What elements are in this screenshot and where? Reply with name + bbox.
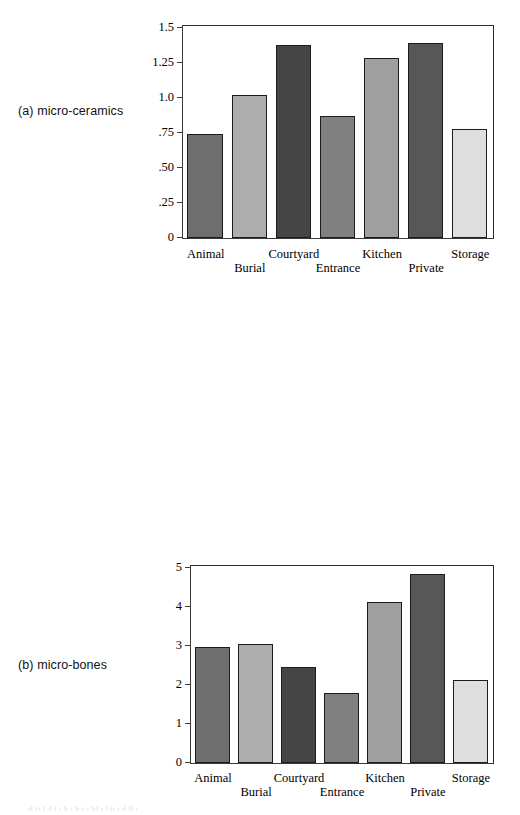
y-tick-label: 1.5: [136, 21, 174, 34]
y-tick-mark: [177, 62, 183, 63]
x-tick-label-storage: Storage: [425, 248, 515, 261]
bars-group-micro-ceramics: [183, 26, 493, 238]
y-tick-mark: [177, 237, 183, 238]
y-tick-mark: [177, 97, 183, 98]
plot-area-micro-ceramics: [182, 25, 494, 239]
y-tick-mark: [177, 202, 183, 203]
x-tick-label-courtyard: Courtyard: [249, 248, 339, 261]
panel-micro-bones: (b) micro-bones 012345 AnimalBurialCourt…: [0, 275, 520, 535]
x-tick-label-burial: Burial: [205, 262, 295, 275]
y-tick-label: .50: [136, 161, 174, 174]
y-tick-mark: [177, 132, 183, 133]
panel-a-caption: (a) micro-ceramics: [18, 104, 168, 118]
bar-kitchen: [364, 58, 399, 238]
bar-entrance: [320, 116, 355, 238]
bar-animal: [187, 134, 222, 238]
x-tick-label-private: Private: [381, 262, 471, 275]
y-tick-label: 0: [136, 231, 174, 244]
figure-multi-panel-bar-charts: (a) micro-ceramics 0.25.50.751.01.251.5 …: [0, 0, 520, 815]
y-tick-label: .75: [136, 126, 174, 139]
bar-courtyard: [276, 45, 311, 238]
y-tick-label: 1.25: [136, 56, 174, 69]
x-tick-label-kitchen: Kitchen: [337, 248, 427, 261]
y-tick-mark: [177, 167, 183, 168]
x-tick-label-entrance: Entrance: [293, 262, 383, 275]
y-tick-mark: [177, 27, 183, 28]
panel-micro-ceramics: (a) micro-ceramics 0.25.50.751.01.251.5 …: [0, 0, 520, 275]
bar-storage: [452, 129, 487, 238]
bar-burial: [232, 95, 267, 238]
y-tick-label: 1.0: [136, 91, 174, 104]
x-tick-label-animal: Animal: [161, 248, 251, 261]
page-footer-fragment: d fi l d l i h i h i i ld i l b i d ll i: [28, 804, 492, 811]
panel-micro-lithics: (c) micro-lithics 02468 AnimalBurialCour…: [0, 535, 520, 795]
y-tick-label: .25: [136, 196, 174, 209]
bar-private: [408, 43, 443, 238]
